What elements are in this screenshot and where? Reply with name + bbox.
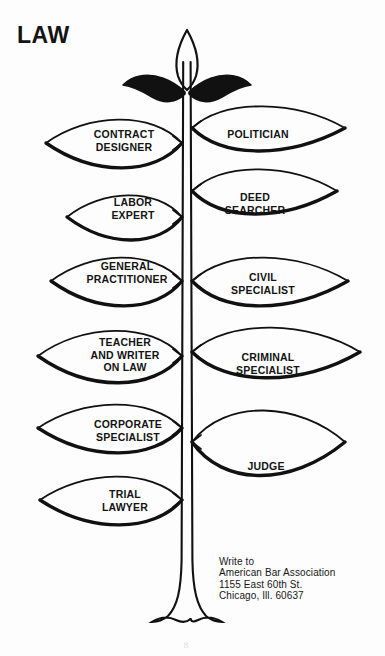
leaf-underline-deed-searcher (192, 191, 337, 214)
sprout-top-icon (123, 30, 251, 102)
leaf-judge[interactable] (192, 410, 345, 475)
leaf-underline-trial-lawyer (40, 500, 182, 525)
leaf-underline-general-practitioner (51, 281, 182, 306)
leaf-underline-judge (192, 442, 345, 475)
leaf-underline-criminal-specialist (192, 352, 360, 378)
leaf-underline-labor-expert (67, 217, 182, 240)
leaf-underline-corporate-specialist (38, 428, 182, 453)
leaf-underline-civil-specialist (192, 281, 348, 306)
leaf-underline-contract-designer (46, 143, 182, 168)
leaf-underline-politician (192, 128, 345, 151)
leaf-underline-teacher-and-writer-on-law (38, 356, 182, 383)
leaf-shapes (38, 106, 360, 524)
law-career-tree-page: LAW CONTRACT DESIGNERPOLITICIANDEED SEAR… (0, 0, 385, 656)
page-number: 8 (184, 640, 189, 650)
contact-address: Write to American Bar Association 1155 E… (219, 556, 335, 602)
